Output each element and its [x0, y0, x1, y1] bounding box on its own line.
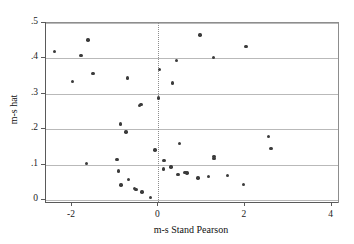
x-tick-0: [71, 202, 72, 206]
gridline-y-5: [46, 23, 338, 24]
x-tick-label: -2: [67, 210, 75, 220]
y-tick-3: [41, 93, 45, 94]
data-point: [198, 33, 201, 36]
data-point: [153, 148, 156, 151]
data-point: [171, 81, 174, 84]
y-tick-0: [41, 199, 45, 200]
gridline-y-4: [46, 58, 338, 59]
data-point: [126, 76, 129, 79]
data-point: [176, 173, 179, 176]
data-point: [269, 147, 272, 150]
y-tick-5: [41, 22, 45, 23]
data-point: [115, 158, 118, 161]
data-point: [91, 72, 94, 75]
y-tick-label: .5: [31, 17, 38, 27]
y-axis-line: [45, 22, 46, 202]
data-point: [157, 96, 160, 99]
data-point: [119, 183, 122, 186]
data-point: [134, 188, 137, 191]
y-tick-label: .1: [31, 159, 38, 169]
data-point: [212, 157, 215, 160]
y-tick-1: [41, 164, 45, 165]
data-point: [178, 142, 181, 145]
x-tick-1: [157, 202, 158, 206]
plot-area: [45, 22, 339, 203]
data-point: [127, 178, 130, 181]
x-tick-label: 4: [328, 210, 333, 220]
data-point: [119, 122, 122, 125]
y-tick-label: .3: [31, 88, 38, 98]
gridline-y-3: [46, 94, 338, 95]
data-point: [124, 130, 127, 133]
y-tick-label: .2: [31, 123, 38, 133]
data-point: [242, 183, 245, 186]
gridline-y-1: [46, 165, 338, 166]
y-tick-2: [41, 128, 45, 129]
gridline-y-2: [46, 129, 338, 130]
y-axis-title: m-s hat: [8, 75, 19, 145]
x-tick-2: [244, 202, 245, 206]
data-point: [267, 135, 270, 138]
scatter-plot-figure: 0.1.2.3.4.5 -2024 m-s Stand Pearson m-s …: [0, 0, 354, 244]
reference-line: [158, 23, 160, 202]
data-point: [196, 176, 199, 179]
data-point: [79, 54, 82, 57]
data-point: [207, 175, 210, 178]
data-point: [140, 190, 143, 193]
data-point: [226, 174, 229, 177]
y-tick-4: [41, 57, 45, 58]
data-point: [185, 171, 188, 174]
x-axis-line: [45, 202, 338, 203]
data-point: [169, 165, 172, 168]
y-tick-label: .4: [31, 52, 38, 62]
data-point: [139, 103, 142, 106]
y-tick-label: 0: [33, 194, 38, 204]
data-point: [53, 50, 56, 53]
x-axis-title: m-s Stand Pearson: [45, 224, 337, 235]
data-point: [162, 159, 165, 162]
data-point: [149, 196, 152, 199]
data-point: [71, 80, 74, 83]
x-tick-label: 2: [242, 210, 247, 220]
data-point: [117, 169, 120, 172]
data-point: [158, 68, 161, 71]
data-point: [175, 59, 178, 62]
x-tick-3: [331, 202, 332, 206]
data-point: [162, 167, 165, 170]
data-point: [86, 38, 89, 41]
x-tick-label: 0: [155, 210, 160, 220]
data-point: [244, 45, 247, 48]
